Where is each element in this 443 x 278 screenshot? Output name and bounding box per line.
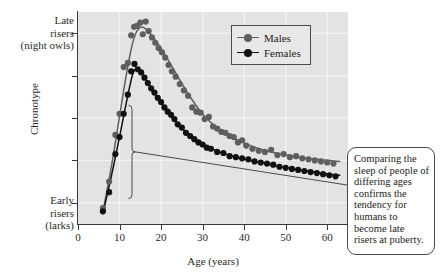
- x-axis-tick-label: 0: [63, 231, 93, 243]
- y-axis-tick: [72, 118, 77, 119]
- x-axis-tick: [286, 225, 287, 230]
- x-axis-tick-label: 40: [229, 231, 259, 243]
- legend-marker-females-icon: [237, 47, 259, 58]
- y-axis-line: [77, 11, 78, 225]
- y-axis-tick: [72, 76, 77, 77]
- x-axis-tick-label: 60: [312, 231, 342, 243]
- x-axis-title: Age (years): [78, 255, 348, 267]
- legend-label-males: Males: [264, 32, 291, 44]
- chart-figure: Late risers (night owls) Early risers (l…: [0, 0, 443, 278]
- x-axis-tick: [203, 225, 204, 230]
- chart-legend: Males Females: [231, 25, 311, 65]
- x-axis-tick: [244, 225, 245, 230]
- x-axis-tick-label: 30: [188, 231, 218, 243]
- y-axis-tick: [72, 33, 77, 34]
- y-axis-low-label: Early risers (larks): [2, 194, 74, 232]
- y-axis-tick: [72, 203, 77, 204]
- legend-label-females: Females: [264, 47, 301, 59]
- legend-marker-males-icon: [237, 32, 259, 43]
- x-axis-tick: [327, 225, 328, 230]
- x-axis-tick: [161, 225, 162, 230]
- x-axis-tick-label: 10: [105, 231, 135, 243]
- y-axis-high-label: Late risers (night owls): [2, 14, 74, 52]
- x-axis-tick-label: 50: [271, 231, 301, 243]
- x-axis-tick-label: 20: [146, 231, 176, 243]
- annotation-callout: Comparing the sleep of people of differi…: [347, 147, 435, 255]
- legend-item-males[interactable]: Males: [237, 30, 301, 45]
- y-axis-title: Chronotype: [28, 49, 40, 169]
- x-axis-line: [77, 224, 349, 225]
- legend-item-females[interactable]: Females: [237, 45, 301, 60]
- x-axis-tick: [78, 225, 79, 230]
- x-axis-tick: [120, 225, 121, 230]
- y-axis-tick: [72, 160, 77, 161]
